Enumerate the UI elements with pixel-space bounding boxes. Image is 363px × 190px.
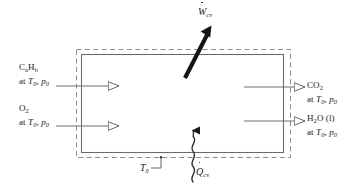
outlet-label-h2o: H2O (l) at T0, p0 [307,113,337,140]
work-symbol: W [198,6,206,17]
heat-wavy-arrow [192,131,195,183]
heat-rate-label: Qcv [196,166,209,178]
overdot-icon [199,162,201,164]
inlet-species-oxygen: O2 [19,103,49,117]
control-volume-rect [82,55,284,153]
inlet-state-fuel: at T0, p0 [19,76,49,90]
heat-symbol: Q [196,166,203,177]
outlet-species-h2o: H2O (l) [307,113,337,127]
outlet-species-co2: CO2 [307,80,337,94]
control-volume-diagram: CaHb at T0, p0 O2 at T0, p0 CO2 at T0, p… [0,0,363,190]
outlet-label-co2: CO2 at T0, p0 [307,80,337,107]
inlet-label-oxygen: O2 at T0, p0 [19,103,49,130]
system-boundary-dashed [77,50,291,158]
inlet-species-fuel: CaHb [19,62,49,76]
inlet-state-oxygen: at T0, p0 [19,117,49,131]
work-rate-label: Wcv [198,6,213,18]
work-arrow [185,26,212,79]
outlet-state-h2o: at T0, p0 [307,127,337,141]
overdot-icon [201,2,203,4]
outlet-state-co2: at T0, p0 [307,94,337,108]
ambient-temperature-label: T0 [140,162,149,174]
inlet-label-fuel: CaHb at T0, p0 [19,62,49,89]
